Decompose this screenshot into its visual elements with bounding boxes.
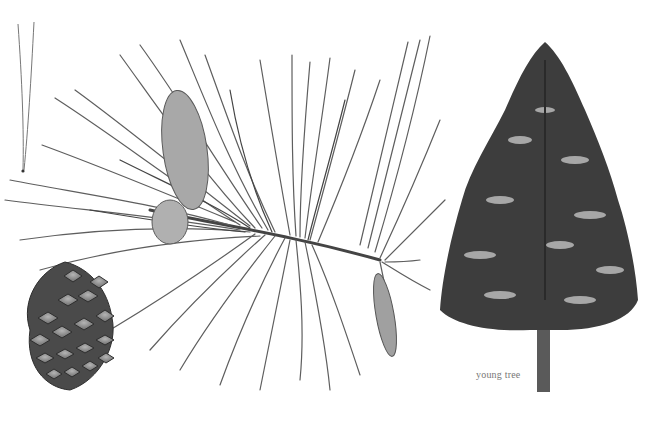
tree-crown [440, 42, 638, 330]
pine-illustration [0, 0, 658, 422]
mature-cone [27, 262, 114, 390]
young-tree-label: young tree [476, 369, 521, 380]
young-tree [440, 42, 638, 392]
botanical-plate: young tree [0, 0, 658, 422]
needle-fascicle [18, 22, 34, 173]
